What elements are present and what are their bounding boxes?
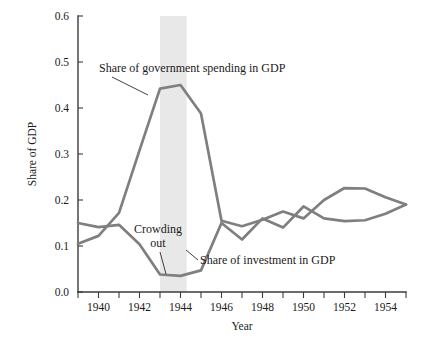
y-tick-label-0.6: 0.6 xyxy=(55,10,70,22)
x-axis-ticks xyxy=(78,292,406,298)
annotation-crowding-out-line1: Crowding xyxy=(134,222,182,236)
crowding-out-shaded-band xyxy=(160,16,187,292)
x-axis-title: Year xyxy=(231,320,252,332)
leader-line-government-spending xyxy=(112,77,148,95)
annotation-investment-label: Share of investment in GDP xyxy=(200,253,336,267)
x-tick-label-1948: 1948 xyxy=(251,301,274,313)
y-tick-label-0.3: 0.3 xyxy=(55,148,70,160)
x-tick-label-1952: 1952 xyxy=(333,301,356,313)
x-tick-label-1940: 1940 xyxy=(87,301,110,313)
chart-container: 0.00.10.20.30.40.50.6 194019421944194619… xyxy=(0,0,445,356)
x-tick-label-1944: 1944 xyxy=(169,301,192,313)
x-tick-label-1950: 1950 xyxy=(292,301,315,313)
annotation-government-spending-label: Share of government spending in GDP xyxy=(99,61,286,75)
y-axis-title: Share of GDP xyxy=(26,122,38,187)
x-tick-label-1942: 1942 xyxy=(128,301,151,313)
y-tick-label-0.1: 0.1 xyxy=(55,240,70,252)
y-tick-label-0.5: 0.5 xyxy=(55,56,70,68)
leader-line-investment xyxy=(186,250,198,260)
x-tick-label-1954: 1954 xyxy=(374,301,397,313)
x-tick-label-1946: 1946 xyxy=(210,301,233,313)
share-of-gdp-line-chart: 0.00.10.20.30.40.50.6 194019421944194619… xyxy=(0,0,445,356)
y-tick-label-0.4: 0.4 xyxy=(55,102,70,114)
annotation-crowding-out-line2: out xyxy=(150,236,166,250)
y-axis-ticks xyxy=(78,16,83,292)
y-tick-label-0.0: 0.0 xyxy=(55,286,70,298)
y-tick-label-0.2: 0.2 xyxy=(55,194,70,206)
y-axis-tick-labels: 0.00.10.20.30.40.50.6 xyxy=(55,10,70,298)
x-axis-tick-labels: 19401942194419461948195019521954 xyxy=(87,301,397,313)
